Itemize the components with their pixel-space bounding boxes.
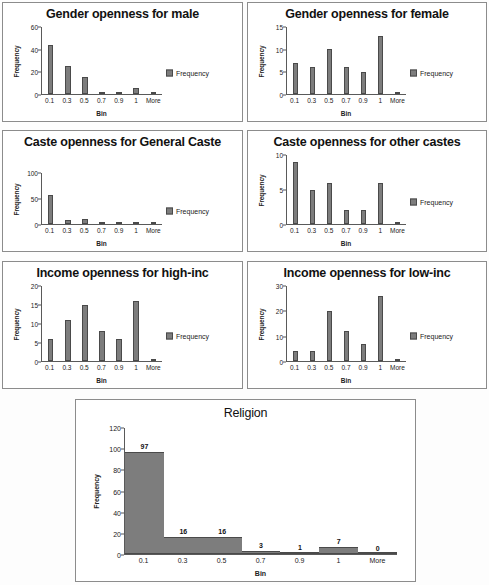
bar[interactable]: [99, 92, 105, 94]
bar[interactable]: [133, 88, 139, 94]
chart-body: Frequency0501000.10.30.50.70.91MoreBinFr…: [3, 171, 242, 251]
bar-slot: [338, 155, 355, 224]
bar-series-frequency: [287, 155, 406, 224]
bar[interactable]: [327, 183, 333, 224]
bar[interactable]: [310, 67, 316, 94]
chart-panel-caste-general: Caste openness for General Caste Frequen…: [2, 130, 243, 252]
bar[interactable]: [164, 537, 203, 554]
x-tick-label: 0.9: [110, 95, 127, 107]
chart-body: Frequency05100.10.30.50.70.91MoreBinFreq…: [248, 153, 486, 251]
bar-value-label: 3: [259, 542, 263, 549]
y-tick-label: 20: [276, 308, 283, 315]
x-tick-label: 1: [127, 225, 144, 237]
bar-series-frequency: [42, 286, 162, 361]
bar[interactable]: [151, 359, 157, 361]
bar[interactable]: [48, 45, 54, 94]
bar[interactable]: [48, 339, 54, 362]
bar[interactable]: [395, 222, 401, 224]
bar[interactable]: [82, 219, 88, 224]
bar-slot: [59, 27, 76, 94]
bar[interactable]: [203, 537, 242, 554]
x-tick-label: 0.5: [320, 95, 337, 107]
bar[interactable]: [395, 359, 401, 361]
bar[interactable]: [344, 210, 350, 224]
bar[interactable]: [133, 301, 139, 361]
bar[interactable]: [344, 331, 350, 361]
bar[interactable]: [133, 222, 139, 224]
y-axis-label: Frequency: [11, 286, 23, 362]
x-tick-label: More: [389, 225, 406, 237]
x-tick-label: 0.7: [337, 225, 354, 237]
bar[interactable]: [319, 547, 358, 554]
chart-body: Frequency051015200.10.30.50.70.91MoreBin…: [3, 284, 242, 388]
bar[interactable]: [361, 344, 367, 362]
bar[interactable]: [293, 63, 299, 94]
chart-title: Caste openness for General Caste: [3, 131, 242, 149]
bar-slot: [93, 286, 110, 361]
y-axis-label: Frequency: [11, 173, 23, 225]
bar[interactable]: [378, 36, 384, 94]
x-tick-label: 0.5: [76, 362, 93, 374]
x-tick-label: 0.1: [41, 95, 58, 107]
x-tick-label: More: [145, 362, 162, 374]
chart-title: Income openness for low-inc: [248, 262, 486, 280]
bar[interactable]: [280, 552, 319, 554]
bar[interactable]: [151, 222, 157, 224]
chart-panel-religion: Religion Frequency0204060801001209716163…: [75, 399, 416, 582]
x-axis-ticks: 0.10.30.50.70.91More: [286, 362, 406, 374]
bar-slot: [321, 155, 338, 224]
x-tick-label: More: [389, 362, 406, 374]
bar[interactable]: [65, 220, 71, 224]
legend-label: Frequency: [176, 70, 209, 77]
bar[interactable]: [310, 351, 316, 361]
bar[interactable]: [65, 66, 71, 94]
legend-label: Frequency: [176, 208, 209, 215]
bar[interactable]: [361, 72, 367, 94]
bar[interactable]: [116, 92, 122, 94]
bar-series-frequency: 9716163170: [125, 428, 397, 554]
bar[interactable]: [125, 452, 164, 554]
bar-slot: [111, 286, 128, 361]
plot-area: Frequency01020300.10.30.50.70.91MoreBin: [256, 286, 408, 384]
legend-swatch-icon: [166, 70, 173, 77]
y-tick-label: 10: [276, 152, 283, 159]
x-tick-label: 0.5: [320, 225, 337, 237]
bar[interactable]: [65, 320, 71, 361]
bar[interactable]: [151, 92, 157, 94]
bar[interactable]: [327, 49, 333, 94]
bar-value-label: 1: [298, 544, 302, 551]
bar[interactable]: [99, 331, 105, 361]
bar[interactable]: [99, 222, 105, 224]
bar[interactable]: [48, 195, 54, 224]
chart-body: Frequency02040600.10.30.50.70.91MoreBinF…: [3, 25, 242, 121]
bar-series-frequency: [287, 27, 406, 94]
bar-slot: [59, 286, 76, 361]
bar[interactable]: [82, 305, 88, 361]
bar[interactable]: [242, 551, 281, 554]
bar[interactable]: [344, 67, 350, 94]
x-tick-label: 0.9: [110, 225, 127, 237]
bar[interactable]: [361, 210, 367, 224]
plot-canvas: [286, 155, 406, 225]
bar[interactable]: [395, 92, 401, 94]
bar[interactable]: [378, 183, 384, 224]
bar[interactable]: [116, 222, 122, 224]
bar[interactable]: [82, 77, 88, 94]
bar[interactable]: [310, 190, 316, 225]
bar-slot: [287, 286, 304, 361]
x-tick-label: 0.3: [303, 225, 320, 237]
bar[interactable]: [327, 311, 333, 361]
bar[interactable]: [116, 339, 122, 362]
x-tick-label: 1: [372, 362, 389, 374]
chart-body: Frequency02040608010012097161631700.10.3…: [76, 426, 415, 581]
bar[interactable]: [358, 552, 397, 554]
plot-area: Frequency02040608010012097161631700.10.3…: [90, 428, 401, 577]
bar[interactable]: [293, 162, 299, 224]
bar[interactable]: [293, 351, 299, 361]
bar-slot: [372, 286, 389, 361]
bar-slot: [355, 155, 372, 224]
x-tick-label: 0.1: [41, 225, 58, 237]
x-axis-label: Bin: [124, 570, 397, 577]
bar[interactable]: [378, 296, 384, 361]
bar-slot: [304, 155, 321, 224]
